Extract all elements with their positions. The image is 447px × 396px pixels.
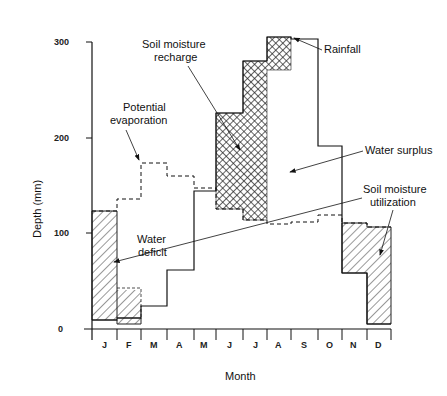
y-axis-title: Depth (mm) xyxy=(31,180,43,238)
svg-text:J: J xyxy=(253,340,258,350)
soil-moisture-utilization-region xyxy=(92,211,391,324)
water-surplus-label: Water surplus xyxy=(365,144,433,156)
y-ticks xyxy=(86,42,92,233)
x-axis-title: Month xyxy=(225,370,256,382)
y-tick-300: 300 xyxy=(54,37,69,47)
soil-moisture-recharge-region xyxy=(216,37,291,220)
month-labels: J F M A M J J A S O N D xyxy=(102,340,382,350)
svg-text:A: A xyxy=(275,340,282,350)
water-balance-chart: 300 200 100 0 J F M A M J J A S O N D Mo… xyxy=(0,0,447,396)
recharge-label-line2: recharge xyxy=(154,51,197,63)
utilization-label-line1: Soil moisture xyxy=(363,183,427,195)
svg-text:J: J xyxy=(227,340,232,350)
y-tick-0: 0 xyxy=(58,324,63,334)
y-tick-200: 200 xyxy=(54,133,69,143)
pe-label-line1: Potential xyxy=(123,101,166,113)
svg-text:O: O xyxy=(326,340,333,350)
y-tick-100: 100 xyxy=(54,228,69,238)
svg-text:M: M xyxy=(200,340,208,350)
svg-text:J: J xyxy=(102,340,107,350)
svg-text:N: N xyxy=(350,340,357,350)
svg-text:A: A xyxy=(176,340,183,350)
svg-text:D: D xyxy=(375,340,382,350)
month-ticks xyxy=(117,329,391,340)
svg-text:S: S xyxy=(301,340,307,350)
pe-label-line2: evaporation xyxy=(110,114,168,126)
utilization-label-line2: utilization xyxy=(370,196,416,208)
rainfall-label: Rainfall xyxy=(324,43,361,55)
svg-text:M: M xyxy=(150,340,158,350)
recharge-label-line1: Soil moisture xyxy=(142,38,206,50)
water-deficit-label-line1: Water xyxy=(137,233,166,245)
svg-text:F: F xyxy=(126,340,132,350)
